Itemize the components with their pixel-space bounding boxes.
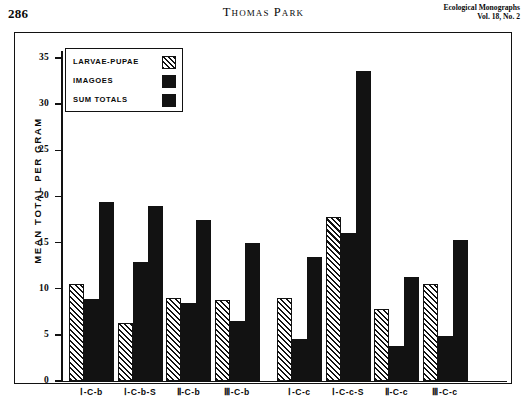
bar-i-c-c-s-larvae-pupae: [326, 217, 341, 381]
y-axis-tick: [55, 242, 62, 243]
bar-i-c-b-sum-totals: [99, 202, 114, 381]
bar-iii-c-b-larvae-pupae: [215, 300, 230, 381]
y-axis-tick: [55, 334, 62, 335]
bar-i-c-c-imagoes: [292, 339, 307, 381]
legend-label-larvae-pupae: LARVAE-PUPAE: [73, 57, 139, 66]
legend-item-larvae-pupae: LARVAE-PUPAE: [73, 55, 178, 71]
y-axis-tick-label: 30: [23, 98, 49, 108]
bar-i-c-b-imagoes: [84, 299, 99, 381]
legend-label-sum-totals: SUM TOTALS: [73, 95, 128, 104]
y-axis-tick: [55, 380, 62, 381]
bar-i-c-c-s-imagoes: [341, 233, 356, 381]
y-axis-tick-label: 20: [23, 190, 49, 200]
bar-i-c-b-s-imagoes: [133, 262, 148, 381]
bar-i-c-c-s-sum-totals: [356, 71, 371, 381]
bar-iii-c-b-imagoes: [230, 321, 245, 381]
chart-legend: LARVAE-PUPAE IMAGOES SUM TOTALS: [65, 48, 183, 112]
y-axis-tick: [55, 150, 62, 151]
y-axis-tick-label: 5: [23, 329, 49, 339]
y-axis-tick-label: 25: [23, 144, 49, 154]
bar-iii-c-b-sum-totals: [245, 243, 260, 381]
bar-i-c-c-sum-totals: [307, 257, 322, 381]
y-axis-line: [61, 51, 63, 382]
legend-swatch-solid-icon: [162, 94, 176, 107]
legend-item-sum-totals: SUM TOTALS: [73, 93, 178, 109]
bar-ii-c-c-imagoes: [389, 346, 404, 381]
legend-swatch-hatched-icon: [162, 56, 176, 69]
y-axis-tick: [55, 288, 62, 289]
y-axis-tick-label: 15: [23, 237, 49, 247]
legend-item-imagoes: IMAGOES: [73, 74, 178, 90]
y-axis-tick: [55, 103, 62, 104]
journal-reference: Ecological Monographs Vol. 18, No. 2: [443, 3, 520, 22]
bar-i-c-b-larvae-pupae: [69, 284, 84, 381]
figure-frame: MEAN TOTAL PER GRAM 05101520253035 LARVA…: [14, 32, 512, 384]
legend-swatch-solid-icon: [162, 75, 176, 88]
y-axis-tick: [55, 196, 62, 197]
bar-ii-c-c-sum-totals: [404, 277, 419, 381]
bar-ii-c-b-larvae-pupae: [166, 298, 181, 381]
y-axis-tick: [55, 57, 62, 58]
y-axis-tick-label: 0: [23, 375, 49, 385]
bar-i-c-c-larvae-pupae: [277, 298, 292, 381]
journal-name: Ecological Monographs: [443, 3, 520, 12]
running-head: 286 Thomas Park Ecological Monographs Vo…: [0, 0, 527, 30]
bar-iii-c-c-sum-totals: [453, 240, 468, 381]
bar-ii-c-c-larvae-pupae: [374, 309, 389, 381]
x-axis-label-iii-c-c: Ⅲ-C-c: [409, 387, 482, 397]
journal-volume: Vol. 18, No. 2: [443, 12, 520, 21]
y-axis-tick-label: 10: [23, 283, 49, 293]
y-axis-tick-label: 35: [23, 52, 49, 62]
bar-ii-c-b-imagoes: [181, 303, 196, 381]
legend-label-imagoes: IMAGOES: [73, 76, 113, 85]
bar-i-c-b-s-sum-totals: [148, 206, 163, 381]
bar-iii-c-c-imagoes: [438, 336, 453, 381]
bar-iii-c-c-larvae-pupae: [423, 284, 438, 381]
bar-ii-c-b-sum-totals: [196, 220, 211, 381]
bar-chart-plot: MEAN TOTAL PER GRAM 05101520253035 LARVA…: [15, 33, 513, 385]
bar-i-c-b-s-larvae-pupae: [118, 323, 133, 381]
